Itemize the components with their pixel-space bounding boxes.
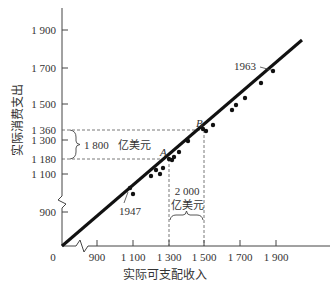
delta-x-unit: 亿美元	[171, 199, 204, 212]
horizontal-brace	[170, 211, 203, 220]
delta-y-annotation: 1 800 亿美元	[84, 134, 151, 153]
y-axis-title: 实际消费支出	[10, 84, 25, 156]
x-tick-label: 1 300	[157, 251, 182, 263]
y-tick-label: 1 700	[31, 62, 56, 74]
origin-label: 0	[50, 251, 56, 263]
delta-x-number: 2 000	[175, 185, 200, 197]
year-start-label: 1947	[119, 205, 142, 217]
x-tick-label: 900	[89, 251, 106, 263]
y-tick-label: 1 180	[31, 153, 56, 165]
vertical-brace	[70, 130, 80, 159]
data-points	[128, 69, 275, 196]
point-a-label: A	[159, 146, 167, 158]
y-tick-label: 1 100	[31, 168, 56, 180]
point-b-label: B	[196, 117, 203, 129]
x-ticks	[97, 240, 276, 246]
x-axis-title: 实际可支配收入	[123, 267, 207, 282]
y-tick-label: 900	[40, 206, 57, 218]
x-tick-label: 1 100	[121, 251, 146, 263]
y-tick-label: 1 500	[31, 98, 56, 110]
y-axis	[58, 8, 66, 246]
y-ticks	[62, 30, 68, 212]
year-end-label: 1963	[234, 60, 257, 72]
y-tick-label: 1 900	[31, 24, 56, 36]
x-tick-label: 1 500	[192, 251, 217, 263]
x-tick-label: 1 700	[228, 251, 253, 263]
y-tick-label: 1 300	[31, 134, 56, 146]
x-tick-label: 1 900	[264, 251, 289, 263]
consumption-income-chart: 1 900 1 700 1 500 1 360 1 300 1 180 1 10…	[0, 0, 333, 288]
